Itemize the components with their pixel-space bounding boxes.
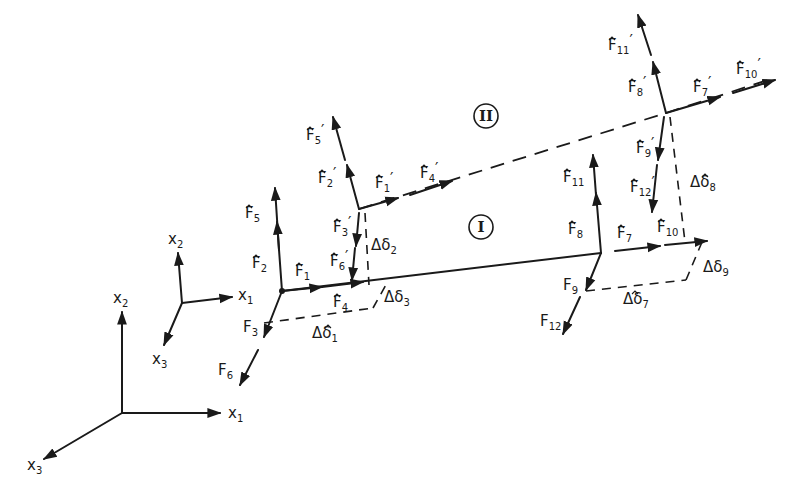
F11-prime-label: F11′ <box>608 32 633 56</box>
force-labels-I: F1 F2 F3 F4 F5 F6 F7 F8 F9 F10 F11 F12 <box>218 168 678 381</box>
F5-prime-arrow <box>333 117 345 160</box>
global-x1-label: x1 <box>228 404 243 424</box>
global-x2-label: x2 <box>113 289 128 309</box>
delta2-line <box>365 213 369 285</box>
delta8-line <box>670 117 685 242</box>
F8-arrow <box>596 193 601 253</box>
F6-prime-label: F6′ <box>330 248 349 272</box>
delta3-label: Δδ3 <box>384 288 410 308</box>
F10-label: F10 <box>657 218 678 238</box>
F3-arrow <box>264 291 282 337</box>
F9-prime-arrow <box>658 117 664 160</box>
F7-prime-arrow <box>666 97 720 113</box>
F2-prime-arrow <box>347 165 359 209</box>
F5-arrow <box>275 188 279 250</box>
local-x1-axis <box>182 297 232 303</box>
region-II-marker: II <box>474 104 498 128</box>
F5-prime-label: F5′ <box>306 122 325 146</box>
F12-prime-label: F12′ <box>630 174 655 198</box>
F9-prime-label: F9′ <box>636 135 655 159</box>
force-diagram: x2 x1 x3 x2 x1 x3 <box>0 0 797 498</box>
F2-prime-label: F2′ <box>318 165 337 189</box>
F3-prime-label: F3′ <box>333 214 352 238</box>
delta9-line <box>686 242 702 280</box>
global-axes: x2 x1 x3 <box>27 289 243 476</box>
global-x3-axis <box>44 413 122 459</box>
F11-prime-arrow <box>638 15 651 55</box>
F8-prime-arrow <box>653 62 666 113</box>
delta1-line <box>264 308 373 323</box>
F10-prime-label: F10′ <box>736 56 761 80</box>
local-x2-label: x2 <box>168 230 183 250</box>
local-x3-axis <box>164 303 182 345</box>
displacement-labels: Δδ1 Δδ2 Δδ3 Δδ7 Δδ8 Δδ9 <box>312 173 729 344</box>
F10-prime-arrow <box>733 80 775 93</box>
F9-arrow <box>586 253 601 290</box>
delta7-label: Δδ7 <box>623 290 649 310</box>
F7-arrow <box>615 246 660 251</box>
F4-prime-label: F4′ <box>420 160 439 184</box>
F11-arrow <box>593 155 596 195</box>
F3-prime-arrow <box>356 213 359 246</box>
F12-arrow <box>563 297 580 334</box>
region-I-marker: I <box>469 215 493 239</box>
element-II <box>333 15 775 280</box>
F1-prime-arrow <box>359 198 398 209</box>
local-x1-label: x1 <box>238 286 253 306</box>
region-I-label: I <box>477 218 484 236</box>
F9-label: F9 <box>563 276 578 296</box>
F6-prime-arrow <box>352 248 355 280</box>
local-x2-axis <box>178 253 182 303</box>
region-II-label: II <box>479 107 493 125</box>
delta1-label: Δδ1 <box>312 324 338 344</box>
delta9-label: Δδ9 <box>703 258 729 278</box>
F1-prime-label: F1′ <box>375 170 394 194</box>
F6-label: F6 <box>218 361 233 381</box>
F8-prime-label: F8′ <box>628 74 647 98</box>
element-II-axis <box>359 113 666 209</box>
local-x3-label: x3 <box>152 350 167 370</box>
F1-arrow <box>282 287 322 291</box>
global-x3-label: x3 <box>27 456 42 476</box>
F12-label: F12 <box>540 312 561 332</box>
F3-label: F3 <box>243 318 258 338</box>
local-axes: x2 x1 x3 <box>152 230 253 370</box>
F7-prime-label: F7′ <box>693 74 712 98</box>
F11-label: F11 <box>563 168 584 188</box>
delta2-label: Δδ2 <box>371 236 397 256</box>
F6-arrow <box>240 350 258 385</box>
